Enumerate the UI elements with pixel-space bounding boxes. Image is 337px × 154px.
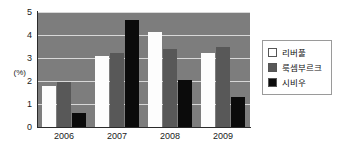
legend-swatch-icon-liverpool (268, 48, 277, 57)
bar-2008-series-2 (178, 80, 192, 127)
y-tick-label-0: 0 (14, 123, 32, 132)
bar-2007-series-1 (110, 53, 124, 127)
y-tick-label-4: 4 (14, 31, 32, 40)
bar-2009-series-2 (231, 97, 245, 127)
legend-item-sibiu: 시비우 (268, 75, 327, 90)
bar-2006-series-0 (42, 86, 56, 127)
y-tick-label-5: 5 (14, 8, 32, 17)
bar-chart: (%) 5 4 3 2 1 0 2006 2007 2008 2009 리버풀 … (0, 0, 337, 154)
x-tick-label-2008: 2008 (144, 131, 196, 141)
bar-group-2007 (91, 12, 144, 127)
y-tick-label-1: 1 (14, 100, 32, 109)
legend-swatch-icon-sibiu (268, 78, 277, 87)
x-tick-label-2007: 2007 (91, 131, 143, 141)
bar-2008-series-1 (163, 49, 177, 127)
bar-2007-series-0 (95, 56, 109, 127)
legend-label-sibiu: 시비우 (282, 78, 306, 88)
bar-2009-series-0 (201, 53, 215, 127)
legend-item-luxembourg: 룩셈부르크 (268, 60, 327, 75)
legend: 리버풀 룩셈부르크 시비우 (262, 40, 332, 95)
bars-layer (38, 12, 250, 127)
x-tick-label-2009: 2009 (197, 131, 249, 141)
x-tick-label-2006: 2006 (38, 131, 90, 141)
y-axis-unit-label: (%) (2, 68, 26, 77)
x-axis-line (37, 127, 251, 128)
bar-group-2006 (38, 12, 91, 127)
y-tick-label-2: 2 (14, 77, 32, 86)
bar-2009-series-1 (216, 47, 230, 128)
bar-group-2008 (144, 12, 197, 127)
legend-item-liverpool: 리버풀 (268, 45, 327, 60)
legend-label-liverpool: 리버풀 (282, 48, 306, 58)
legend-swatch-icon-luxembourg (268, 63, 277, 72)
y-tick-label-3: 3 (14, 54, 32, 63)
bar-2007-series-2 (125, 20, 139, 127)
legend-label-luxembourg: 룩셈부르크 (282, 63, 322, 73)
bar-2006-series-2 (72, 113, 86, 127)
bar-2008-series-0 (148, 32, 162, 127)
bar-group-2009 (197, 12, 250, 127)
bar-2006-series-1 (57, 82, 71, 127)
